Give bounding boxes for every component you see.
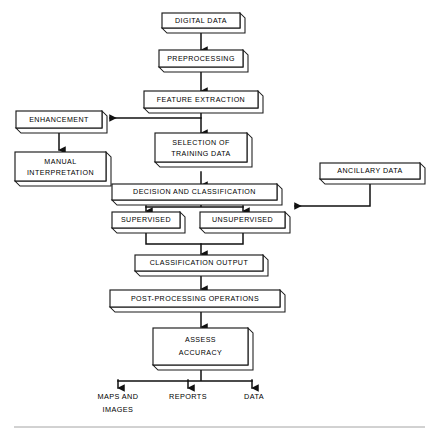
node-feature-extraction[interactable]: FEATURE EXTRACTION (144, 91, 263, 113)
node-decision-classification[interactable]: DECISION AND CLASSIFICATION (112, 184, 282, 205)
node-label-supervised: SUPERVISED (121, 216, 171, 224)
node-post-processing[interactable]: POST-PROCESSING OPERATIONS (110, 290, 285, 312)
node-label-decision-classification: DECISION AND CLASSIFICATION (133, 188, 256, 196)
node-label-unsupervised: UNSUPERVISED (212, 216, 273, 224)
node-unsupervised[interactable]: UNSUPERVISED (200, 212, 290, 233)
terminal-label-data: DATA (244, 392, 264, 401)
node-digital-data[interactable]: DIGITAL DATA (162, 13, 245, 33)
node-label-assess-line1: ASSESS (185, 336, 216, 344)
node-selection-training-data[interactable]: SELECTION OF TRAINING DATA (155, 133, 252, 167)
node-ancillary-data[interactable]: ANCILLARY DATA (320, 163, 425, 184)
node-supervised[interactable]: SUPERVISED (112, 212, 185, 233)
node-label-enhancement: ENHANCEMENT (29, 116, 89, 124)
node-preprocessing[interactable]: PREPROCESSING (159, 50, 248, 72)
node-label-selection-line1: SELECTION OF (172, 139, 230, 147)
node-classification-output[interactable]: CLASSIFICATION OUTPUT (135, 255, 268, 276)
node-label-manual-interpretation-line2: INTERPRETATION (27, 169, 94, 177)
node-assess-accuracy[interactable]: ASSESS ACCURACY (153, 328, 253, 370)
node-manual-interpretation[interactable]: MANUAL INTERPRETATION (15, 152, 111, 186)
node-label-digital-data: DIGITAL DATA (175, 17, 227, 25)
node-label-ancillary-data: ANCILLARY DATA (337, 167, 402, 175)
node-label-classification-output: CLASSIFICATION OUTPUT (150, 259, 249, 267)
flowchart-canvas: DIGITAL DATA PREPROCESSING FEATURE EXTRA… (0, 0, 439, 433)
terminal-label-maps-line1: MAPS AND (98, 392, 139, 401)
node-label-feature-extraction: FEATURE EXTRACTION (157, 96, 245, 104)
terminal-label-reports: REPORTS (169, 392, 207, 401)
terminal-label-maps-line2: IMAGES (103, 405, 134, 414)
node-label-assess-line2: ACCURACY (179, 349, 222, 357)
node-label-manual-interpretation-line1: MANUAL (44, 158, 76, 166)
node-label-selection-line2: TRAINING DATA (171, 150, 231, 158)
node-enhancement[interactable]: ENHANCEMENT (16, 111, 107, 133)
node-label-post-processing: POST-PROCESSING OPERATIONS (131, 295, 259, 303)
flowchart-svg: DIGITAL DATA PREPROCESSING FEATURE EXTRA… (0, 0, 439, 433)
terminal-maps-and-images: MAPS AND IMAGES (98, 392, 139, 414)
node-label-preprocessing: PREPROCESSING (167, 55, 235, 63)
